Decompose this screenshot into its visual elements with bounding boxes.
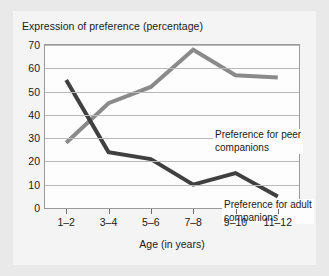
x-tick-label-3: 7–8	[184, 216, 202, 228]
x-tick-label-4: 9–10	[224, 216, 247, 228]
x-tick-mark-2	[151, 209, 152, 214]
gridline-20	[45, 161, 299, 162]
y-tick-label-50: 50	[10, 86, 40, 98]
gridline-40	[45, 115, 299, 116]
y-axis-tick-labels: 010203040506070	[8, 44, 40, 209]
x-tick-mark-5	[278, 209, 279, 214]
plot-area: Preference for peer companions Preferenc…	[44, 44, 300, 209]
annotation-peer-companions: Preference for peer companions	[213, 129, 303, 154]
x-tick-label-5: 11–12	[264, 216, 292, 228]
chart-title: Expression of preference (percentage)	[22, 20, 203, 32]
x-tick-label-0: 1–2	[57, 216, 75, 228]
x-tick-label-1: 3–4	[100, 216, 118, 228]
x-tick-label-2: 5–6	[142, 216, 160, 228]
chart-figure: Expression of preference (percentage) 01…	[0, 0, 329, 276]
y-tick-label-40: 40	[10, 109, 40, 121]
x-tick-mark-4	[236, 209, 237, 214]
y-tick-label-20: 20	[10, 155, 40, 167]
y-tick-label-60: 60	[10, 62, 40, 74]
annotation-peer-line1: Preference for peer	[213, 129, 303, 142]
gridline-60	[45, 68, 299, 69]
x-tick-mark-0	[66, 209, 67, 214]
annotation-peer-line2: companions	[213, 142, 303, 155]
y-tick-label-30: 30	[10, 132, 40, 144]
x-axis-title: Age (in years)	[44, 238, 300, 250]
gridline-70	[45, 45, 299, 46]
x-tick-mark-3	[193, 209, 194, 214]
y-tick-label-10: 10	[10, 179, 40, 191]
x-tick-mark-1	[109, 209, 110, 214]
series-lines	[45, 45, 299, 208]
gridline-10	[45, 185, 299, 186]
y-tick-label-70: 70	[10, 39, 40, 51]
x-axis-tick-labels: 1–23–45–67–89–1011–12	[44, 216, 300, 232]
gridline-50	[45, 92, 299, 93]
x-axis-tick-marks	[44, 209, 300, 215]
y-tick-label-0: 0	[10, 202, 40, 214]
